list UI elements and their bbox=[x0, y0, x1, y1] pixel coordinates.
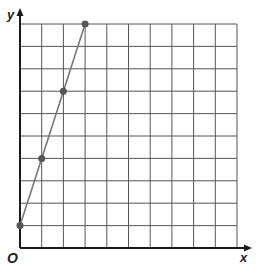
chart-plot bbox=[0, 0, 258, 267]
grid-lines bbox=[20, 24, 237, 248]
data-series bbox=[17, 21, 89, 230]
x-axis-label: x bbox=[240, 250, 247, 265]
axes bbox=[17, 8, 253, 252]
origin-label: O bbox=[7, 250, 18, 266]
data-point-marker bbox=[60, 88, 67, 95]
data-point-marker bbox=[82, 21, 89, 28]
y-axis-label: y bbox=[7, 7, 14, 22]
data-point-marker bbox=[17, 222, 24, 229]
y-axis-arrow-icon bbox=[17, 8, 24, 16]
series-line bbox=[20, 24, 85, 226]
data-point-marker bbox=[38, 155, 45, 162]
